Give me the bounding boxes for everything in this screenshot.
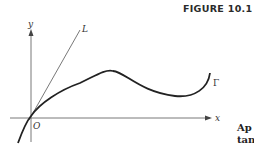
tangent-line-L: [29, 30, 80, 120]
side-text-line-1: Ap: [237, 122, 252, 133]
x-axis-arrow-icon: [205, 116, 212, 121]
y-axis-arrow-icon: [29, 29, 34, 36]
origin-label: O: [33, 121, 41, 131]
curve-label-gamma: Γ: [213, 78, 219, 88]
curve-gamma: [18, 71, 210, 143]
side-text-line-2: tan: [237, 134, 254, 145]
x-axis-label: x: [215, 113, 220, 123]
diagram-canvas: y L Γ x O: [0, 0, 254, 153]
y-axis-label: y: [27, 19, 34, 29]
tangent-label-L: L: [81, 24, 88, 34]
